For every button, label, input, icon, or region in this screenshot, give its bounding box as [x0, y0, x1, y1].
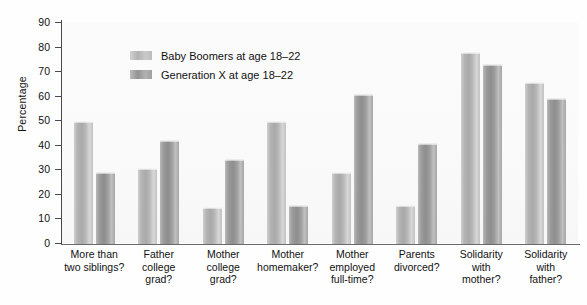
y-axis-tick-label: 90	[18, 22, 50, 23]
y-axis-tick	[55, 169, 61, 170]
x-axis-label: Parentsdivorced?	[385, 248, 450, 273]
x-axis-label-line: Mother	[320, 248, 385, 261]
y-axis-tick	[55, 218, 61, 219]
bar	[74, 121, 93, 244]
y-axis-tick	[55, 47, 61, 48]
x-axis-label: More thantwo siblings?	[62, 248, 127, 273]
x-axis-label: Motheremployedfull-time?	[320, 248, 385, 286]
bar	[160, 140, 179, 244]
x-axis-label-line: homemaker?	[256, 261, 321, 274]
y-axis-tick-label: 70	[18, 71, 50, 72]
y-axis-tick-label: 40	[18, 145, 50, 146]
bar	[267, 121, 286, 244]
bar-group	[62, 23, 127, 244]
bar-group	[191, 23, 256, 244]
bar	[547, 98, 566, 244]
x-axis-category-labels: More thantwo siblings?Fathercollegegrad?…	[62, 248, 578, 304]
x-axis-label-line: with	[449, 261, 514, 274]
y-axis-tick-label: 20	[18, 194, 50, 195]
y-axis-tick-label: 0	[18, 243, 50, 244]
bar	[138, 168, 157, 244]
x-axis-label-line: Solidarity	[449, 248, 514, 261]
bar	[289, 205, 308, 244]
x-axis-label-line: divorced?	[385, 261, 450, 274]
y-axis-title: Percentage	[16, 54, 28, 154]
y-axis-tick	[55, 243, 61, 244]
x-axis-label-line: full-time?	[320, 273, 385, 286]
x-axis-label-line: father?	[514, 273, 579, 286]
x-axis-label-line: two siblings?	[62, 261, 127, 274]
y-axis-tick	[55, 96, 61, 97]
bar	[96, 172, 115, 244]
bar-group	[514, 23, 579, 244]
y-axis-tick	[55, 22, 61, 23]
x-axis-line	[61, 244, 580, 245]
bar-group	[449, 23, 514, 244]
y-axis-tick-label: 50	[18, 120, 50, 121]
x-axis-label-line: Mother	[191, 248, 256, 261]
bar	[483, 64, 502, 244]
y-axis-tick	[55, 71, 61, 72]
x-axis-label-line: Solidarity	[514, 248, 579, 261]
bar-group	[320, 23, 385, 244]
x-axis-label-line: college	[127, 261, 192, 274]
bar	[225, 159, 244, 244]
y-axis-tick-label: 30	[18, 169, 50, 170]
bar	[203, 207, 222, 244]
x-axis-label-line: Parents	[385, 248, 450, 261]
y-axis-tick	[55, 194, 61, 195]
x-axis-label-line: grad?	[127, 273, 192, 286]
x-axis-label-line: college	[191, 261, 256, 274]
bar-group	[256, 23, 321, 244]
x-axis-label-line: Father	[127, 248, 192, 261]
x-axis-label-line: grad?	[191, 273, 256, 286]
x-axis-label: Mothercollegegrad?	[191, 248, 256, 286]
bar	[354, 94, 373, 244]
x-axis-label-line: employed	[320, 261, 385, 274]
bar	[461, 52, 480, 244]
x-axis-label: Solidaritywithfather?	[514, 248, 579, 286]
bar-chart: Percentage 9080706050403020100 Baby Boom…	[0, 0, 587, 305]
x-axis-label: Solidaritywithmother?	[449, 248, 514, 286]
y-axis-tick	[55, 145, 61, 146]
x-axis-label-line: mother?	[449, 273, 514, 286]
y-axis-tick-label: 80	[18, 47, 50, 48]
bar-group	[127, 23, 192, 244]
x-axis-label-line: with	[514, 261, 579, 274]
bar-group	[385, 23, 450, 244]
bar	[396, 205, 415, 244]
y-axis-tick-label: 10	[18, 218, 50, 219]
bar	[332, 172, 351, 244]
bar	[418, 143, 437, 244]
x-axis-label-line: Mother	[256, 248, 321, 261]
x-axis-label: Fathercollegegrad?	[127, 248, 192, 286]
bar	[525, 82, 544, 244]
y-axis-tick	[55, 120, 61, 121]
x-axis-label-line: More than	[62, 248, 127, 261]
x-axis-label: Motherhomemaker?	[256, 248, 321, 273]
y-axis-tick-label: 60	[18, 96, 50, 97]
